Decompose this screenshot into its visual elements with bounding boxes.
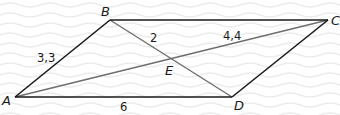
vertex-label-b: B xyxy=(101,4,110,19)
vertex-label-a: A xyxy=(1,93,11,108)
parallelogram-diagram: B C A D E 3,3 2 4,4 6 xyxy=(0,0,340,115)
length-ab: 3,3 xyxy=(37,51,55,65)
vertex-label-d: D xyxy=(234,98,244,113)
length-ad: 6 xyxy=(120,100,127,114)
length-ec: 4,4 xyxy=(223,29,241,43)
vertex-label-e: E xyxy=(165,63,174,78)
length-be: 2 xyxy=(150,31,157,45)
diagram-svg: B C A D E 3,3 2 4,4 6 xyxy=(0,0,340,115)
vertex-label-c: C xyxy=(331,13,340,28)
